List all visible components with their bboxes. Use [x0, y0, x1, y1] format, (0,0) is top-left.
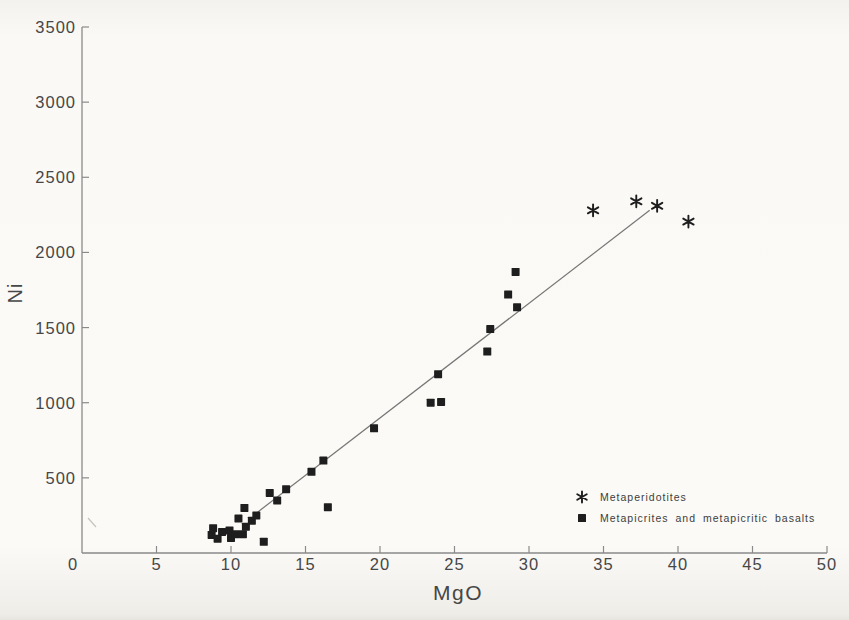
data-point-square	[324, 503, 332, 511]
data-point-square	[239, 530, 247, 538]
data-point-square	[512, 268, 520, 276]
data-point-square	[319, 457, 327, 465]
x-tick-label: 5	[151, 555, 161, 573]
x-tick-label: 10	[221, 555, 241, 573]
data-point-square	[370, 424, 378, 432]
data-point-asterisk	[577, 492, 587, 503]
data-point-square	[437, 398, 445, 406]
legend-label-metapicrites: Metapicrites and metapicritic basalts	[600, 512, 815, 524]
data-point-asterisk	[683, 216, 693, 228]
scatter-chart: 0510152025303540455050010001500200025003…	[0, 0, 849, 620]
data-point-asterisk	[652, 200, 662, 212]
axes-layer: 0510152025303540455050010001500200025003…	[35, 18, 837, 573]
legend: Metaperidotites Metapicrites and metapic…	[577, 491, 815, 524]
x-axis-title: MgO	[433, 581, 483, 604]
y-tick-label: 1500	[35, 319, 76, 337]
data-point-asterisk	[631, 195, 641, 207]
data-point-square	[434, 370, 442, 378]
data-point-asterisk	[588, 204, 598, 216]
x-tick-label: 20	[370, 555, 390, 573]
x-tick-label: 45	[742, 555, 762, 573]
data-point-square	[234, 514, 242, 522]
y-tick-label: 3000	[35, 93, 76, 111]
data-point-square	[260, 538, 268, 546]
x-tick-label: 35	[593, 555, 613, 573]
y-axis-title: Ni	[4, 283, 26, 304]
x-tick-label: 50	[817, 555, 837, 573]
data-point-square	[578, 514, 586, 522]
data-point-square	[231, 530, 239, 538]
x-tick-label: 30	[519, 555, 539, 573]
x-tick-label: 0	[68, 555, 78, 573]
x-tick-label: 25	[444, 555, 464, 573]
scan-artifact	[88, 518, 96, 527]
data-point-square	[240, 504, 248, 512]
x-tick-label: 40	[668, 555, 688, 573]
y-tick-label: 2000	[35, 243, 76, 261]
y-tick-label: 1000	[35, 394, 76, 412]
data-point-square	[273, 496, 281, 504]
data-point-square	[427, 399, 435, 407]
y-tick-label: 2500	[35, 168, 76, 186]
legend-markers	[577, 492, 587, 523]
data-point-square	[218, 528, 226, 536]
x-tick-label: 15	[295, 555, 315, 573]
data-point-square	[504, 291, 512, 299]
data-point-square	[266, 489, 274, 497]
data-point-square	[252, 511, 260, 519]
y-tick-label: 500	[45, 469, 76, 487]
data-point-square	[209, 524, 217, 532]
y-tick-label: 3500	[35, 18, 76, 36]
data-point-square	[513, 303, 521, 311]
legend-label-metaperidotites: Metaperidotites	[600, 491, 687, 503]
data-point-square	[282, 485, 290, 493]
data-point-square	[307, 468, 315, 476]
scanned-figure-page: 0510152025303540455050010001500200025003…	[0, 0, 849, 620]
data-point-square	[486, 325, 494, 333]
data-point-square	[483, 348, 491, 356]
